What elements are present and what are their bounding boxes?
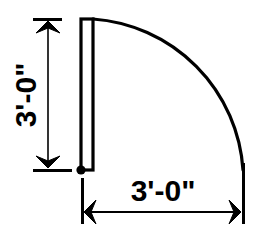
vertical-dimension-label: 3'-0" <box>9 63 42 128</box>
door-swing-drawing: 3'-0" 3'-0" <box>0 0 258 242</box>
hinge-pivot-point <box>76 165 85 174</box>
horizontal-dimension-label: 3'-0" <box>131 174 196 207</box>
door-leaf-body <box>81 19 93 170</box>
drawing-canvas: 3'-0" 3'-0" <box>0 0 258 242</box>
door-leaf <box>81 19 93 170</box>
